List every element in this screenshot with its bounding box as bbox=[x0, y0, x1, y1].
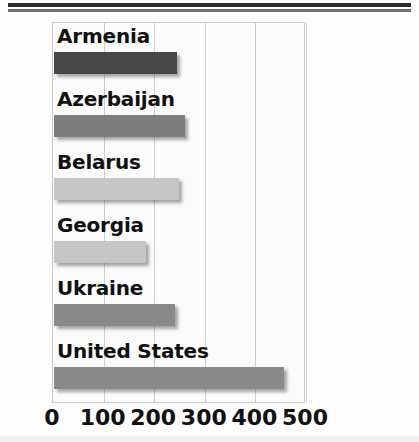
header-divider-rule bbox=[8, 3, 411, 7]
bar-row: Georgia bbox=[53, 212, 304, 275]
figure-bottom-edge bbox=[0, 436, 419, 442]
bar bbox=[54, 115, 185, 137]
x-tick-label: 400 bbox=[231, 405, 277, 431]
bar-fill bbox=[54, 241, 146, 263]
x-tick-label: 100 bbox=[80, 405, 126, 431]
bar-fill bbox=[54, 304, 175, 326]
bar-label: Ukraine bbox=[57, 275, 143, 301]
bar-label: Azerbaijan bbox=[57, 86, 175, 112]
bar-label: Armenia bbox=[57, 23, 150, 49]
bar-fill bbox=[54, 178, 179, 200]
bar-row: Ukraine bbox=[53, 275, 304, 338]
x-tick-label: 500 bbox=[282, 405, 328, 431]
bar-row: Belarus bbox=[53, 149, 304, 212]
plot-area: ArmeniaAzerbaijanBelarusGeorgiaUkraineUn… bbox=[52, 22, 305, 403]
bar-fill bbox=[54, 367, 284, 389]
bar bbox=[54, 241, 146, 263]
bar-row: United States bbox=[53, 338, 304, 401]
header-divider-rule-secondary bbox=[8, 9, 411, 12]
bar bbox=[54, 52, 177, 74]
bar bbox=[54, 367, 284, 389]
bar bbox=[54, 178, 179, 200]
chart-figure: ArmeniaAzerbaijanBelarusGeorgiaUkraineUn… bbox=[0, 0, 419, 442]
gridline-500 bbox=[306, 23, 307, 402]
x-tick-label: 200 bbox=[130, 405, 176, 431]
bar bbox=[54, 304, 175, 326]
bar-fill bbox=[54, 52, 177, 74]
bar-label: United States bbox=[57, 338, 209, 364]
bar-label: Georgia bbox=[57, 212, 144, 238]
bar-fill bbox=[54, 115, 185, 137]
bar-row: Armenia bbox=[53, 23, 304, 86]
x-axis: 0100200300400500 bbox=[0, 405, 419, 435]
x-tick-label: 0 bbox=[44, 405, 59, 431]
x-tick-label: 300 bbox=[181, 405, 227, 431]
bar-row: Azerbaijan bbox=[53, 86, 304, 149]
bar-label: Belarus bbox=[57, 149, 141, 175]
